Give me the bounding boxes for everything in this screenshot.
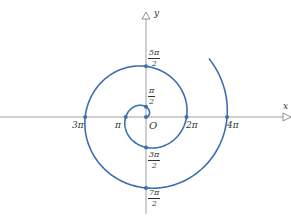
spiral-point [144,145,148,149]
spiral-point [144,115,148,119]
label-5pi-over-2: 5π 2 [148,49,160,68]
x-axis-label: x [283,102,288,111]
spiral-point [83,115,87,119]
label-3pi-over-2: 3π 2 [148,151,160,170]
spiral-point [124,115,128,119]
spiral-point [225,115,229,119]
label-7pi-over-2: 7π 2 [148,189,160,208]
label-2pi: 2π [186,121,198,130]
origin-label: O [149,121,157,131]
label-pi: π [115,121,121,130]
spiral-point [185,115,189,119]
label-4pi: 4π [227,121,239,130]
spiral-diagram [0,0,291,221]
x-axis-arrow-icon [283,113,291,121]
y-axis-arrow-icon [142,12,150,19]
label-pi-over-2: π 2 [148,87,155,106]
y-axis-label: y [154,9,159,18]
label-3pi: 3π [72,121,84,130]
